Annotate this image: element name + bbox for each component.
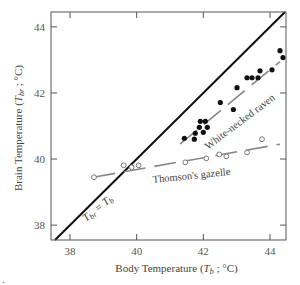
gazelle-point — [183, 160, 188, 165]
y-tick-label: 42 — [34, 87, 45, 99]
raven-point — [193, 131, 198, 136]
raven-point — [205, 125, 210, 130]
gazelle-point — [260, 137, 265, 142]
footnote-mark: . — [2, 273, 5, 285]
raven-point — [198, 119, 203, 124]
raven-point — [218, 100, 223, 105]
raven-point — [269, 67, 274, 72]
gazelle-point — [136, 163, 141, 168]
gazelle-series-label: Thomson's gazelle — [152, 166, 231, 185]
x-tick-label: 44 — [265, 245, 277, 257]
x-axis-title: Body Temperature (Tb ; °C) — [115, 262, 238, 276]
raven-point — [192, 137, 197, 142]
raven-series-label: White-necked raven — [203, 91, 278, 151]
y-tick-label: 40 — [34, 153, 46, 165]
raven-point — [277, 48, 282, 53]
raven-point — [231, 107, 236, 112]
raven-point — [249, 75, 254, 80]
raven-point — [280, 55, 285, 60]
raven-point — [257, 68, 262, 73]
raven-point — [201, 130, 206, 135]
gazelle-point — [204, 156, 209, 161]
x-tick-label: 38 — [65, 245, 77, 257]
raven-point — [182, 136, 187, 141]
y-axis-title: Brain Temperature (Tbr ; °C) — [12, 65, 26, 191]
gazelle-point — [217, 152, 222, 157]
y-tick-label: 38 — [34, 219, 46, 231]
y-tick-label: 44 — [34, 21, 46, 33]
raven-point — [203, 119, 208, 124]
gazelle-point — [129, 165, 134, 170]
x-tick-label: 42 — [198, 245, 209, 257]
raven-point — [255, 75, 260, 80]
raven-point — [244, 75, 249, 80]
gazelle-point — [245, 150, 250, 155]
raven-point — [234, 85, 239, 90]
x-tick-label: 40 — [131, 245, 143, 257]
raven-point — [197, 125, 202, 130]
gazelle-point — [121, 163, 126, 168]
chart: 38404244 38404244 Body Temperature (Tb ;… — [0, 0, 300, 285]
gazelle-point — [224, 154, 229, 159]
gazelle-point — [92, 175, 97, 180]
